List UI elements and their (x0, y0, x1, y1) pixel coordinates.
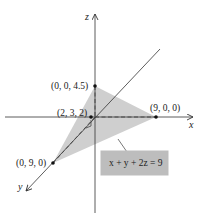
point-foot (89, 115, 93, 119)
point-z-intercept (93, 84, 97, 88)
point-x-intercept (154, 115, 158, 119)
label-y-axis: y (17, 181, 23, 192)
label-foot: (2, 3, 2) (57, 108, 87, 119)
label-z-intercept: (0, 0, 4.5) (51, 81, 88, 92)
3d-plane-diagram: (0, 0, 4.5) (9, 0, 0) (0, 9, 0) (2, 3, 2… (0, 0, 207, 224)
label-x-intercept: (9, 0, 0) (150, 103, 180, 114)
label-y-intercept: (0, 9, 0) (16, 158, 46, 169)
point-y-intercept (51, 161, 55, 165)
callout-pointer (118, 139, 127, 152)
plane-equation: x + y + 2z = 9 (109, 158, 163, 168)
label-x-axis: x (188, 119, 194, 130)
label-z-axis: z (84, 11, 89, 22)
